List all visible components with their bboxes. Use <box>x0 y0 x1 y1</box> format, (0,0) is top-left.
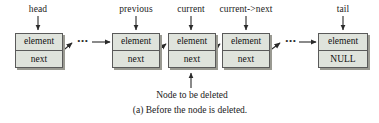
pointer-label-head: head <box>29 4 47 14</box>
list-node-head: element next <box>15 33 63 68</box>
node-next-cell: next <box>16 51 62 68</box>
list-node-previous: element next <box>112 33 160 68</box>
node-next-cell: next <box>223 51 269 68</box>
pointer-label-previous: previous <box>119 4 153 14</box>
pointer-label-current-next: current->next <box>219 4 272 14</box>
node-element-cell: element <box>223 34 269 51</box>
pointer-label-tail: tail <box>337 4 350 14</box>
pointer-label-current: current <box>177 4 205 14</box>
linked-list-figure: head previous current current->next tail… <box>0 0 379 123</box>
node-element-cell: element <box>113 34 159 51</box>
node-element-cell: element <box>16 34 62 51</box>
ellipsis-tail-segment: ••• <box>285 36 296 46</box>
node-element-cell: element <box>319 34 367 51</box>
list-node-current-next: element next <box>222 33 270 68</box>
node-element-cell: element <box>169 34 215 51</box>
list-node-tail: element NULL <box>318 33 368 68</box>
node-next-cell: next <box>113 51 159 68</box>
node-to-be-deleted-label: Node to be deleted <box>156 90 228 100</box>
node-null-cell: NULL <box>319 51 367 68</box>
figure-caption: (a) Before the node is deleted. <box>133 105 247 115</box>
node-next-cell: next <box>169 51 215 68</box>
list-node-current: element next <box>168 33 216 68</box>
ellipsis-head-segment: ••• <box>77 36 88 46</box>
